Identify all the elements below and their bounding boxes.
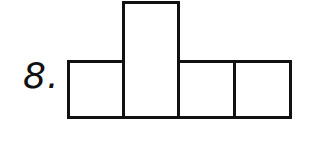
square-1	[67, 60, 125, 119]
square-4	[233, 60, 292, 119]
tall-rectangle-2	[122, 1, 180, 119]
square-3	[177, 60, 236, 119]
problem-number-label: 8.	[23, 56, 59, 96]
